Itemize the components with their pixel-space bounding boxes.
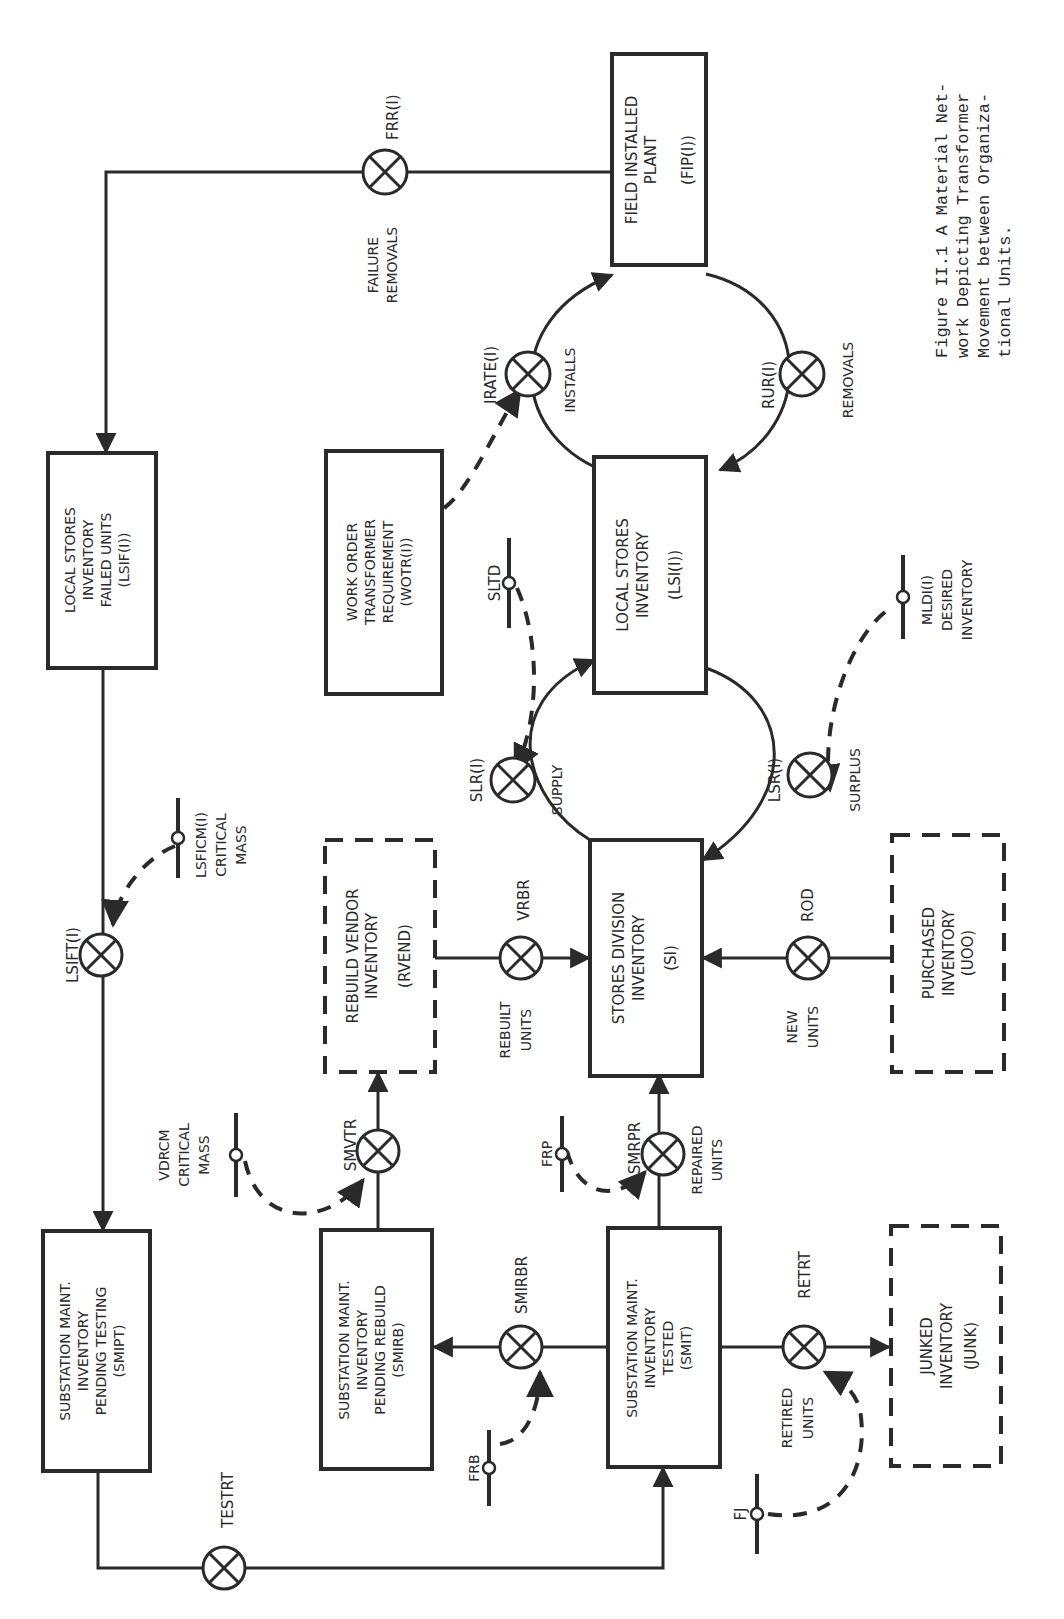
rate-vrbr-desc1: REBUILT: [497, 1001, 513, 1058]
stock-uoo-line2: INVENTORY: [940, 909, 958, 996]
aux-fj: FJ: [732, 1474, 763, 1554]
rate-testrt-name: TESTRT: [219, 1471, 237, 1529]
aux-lsficm-line2: CRITICAL: [213, 813, 229, 877]
stock-fip: FIELD INSTALLED PLANT (FIP(I)): [612, 54, 706, 265]
rate-retrt-name: RETRT: [796, 1250, 814, 1298]
stock-junk: JUNKED INVENTORY (JUNK): [891, 1226, 1001, 1466]
stock-lsif-line1: LOCAL STORES: [62, 507, 78, 613]
aux-frp: FRP: [539, 1116, 568, 1192]
valve-icon: [780, 352, 824, 396]
caption-line4: tional Units.: [996, 225, 1015, 358]
rate-rod-name: ROD: [799, 888, 817, 922]
aux-vdrcm-line2: CRITICAL: [176, 1123, 192, 1187]
stock-wotr-line2: TRANSFORMER: [362, 519, 378, 626]
valve-icon: [783, 1326, 825, 1368]
constant-icon: [751, 1474, 763, 1554]
stock-junk-code: (JUNK): [962, 1322, 980, 1370]
stock-lsif-line2: INVENTORY: [80, 519, 96, 600]
aux-lsficm-line1: LSFICM(I): [193, 812, 209, 878]
rate-smvtr-name: SMVTR: [342, 1119, 360, 1171]
aux-vdrcm-line1: VDRCM: [156, 1129, 172, 1180]
aux-sltd-label: SLTD: [486, 565, 504, 602]
stock-junk-line2: INVENTORY: [938, 1302, 956, 1389]
stock-lsi-line2: INVENTORY: [634, 531, 652, 618]
valve-smirbr: SMIRBR: [500, 1256, 542, 1368]
caption-line3: Movement between Organiza-: [975, 93, 994, 358]
valve-icon: [363, 150, 407, 194]
valve-smvtr: SMVTR: [342, 1119, 399, 1172]
caption-line2: work Depicting Transformer: [954, 93, 973, 358]
figure-caption: Figure II.1 A Material Net- work Depicti…: [933, 83, 1015, 358]
stock-wotr-code: (WOTR(I)): [398, 537, 414, 606]
stock-lsi-code: (LSI(I)): [666, 550, 684, 600]
valve-testrt: TESTRT: [203, 1471, 245, 1589]
stock-junk-line1: JUNKED: [918, 1317, 936, 1376]
stock-smit-line3: TESTED: [660, 1321, 676, 1376]
stock-rvend: REBUILD VENDOR INVENTORY (RVEND): [325, 840, 435, 1072]
aux-sltd: SLTD: [486, 538, 515, 628]
valve-icon: [506, 352, 550, 396]
valve-icon: [80, 934, 122, 976]
stock-fip-line2: PLANT: [642, 135, 660, 184]
constant-icon: [897, 555, 909, 639]
stock-fip-code: (FIP(I)): [679, 135, 697, 185]
stock-smipt-line1: SUBSTATION MAINT.: [57, 1281, 73, 1421]
aux-mldi: MLDI(I) DESIRED INVENTORY: [897, 555, 975, 640]
aux-vdrcm: VDRCM CRITICAL MASS: [156, 1113, 242, 1197]
stock-smipt: SUBSTATION MAINT. INVENTORY PENDING TEST…: [43, 1231, 150, 1471]
rate-slr-desc: SUPPLY: [549, 764, 565, 815]
stock-smipt-line2: INVENTORY: [75, 1310, 91, 1391]
valve-frr: FRR(I) FAILURE REMOVALS: [363, 94, 407, 303]
stock-wotr: WORK ORDER TRANSFORMER REQUIREMENT (WOTR…: [326, 451, 442, 694]
stock-smipt-code: (SMIPT): [111, 1324, 127, 1377]
valve-icon: [203, 1547, 245, 1589]
aux-frb-label: FRB: [466, 1454, 482, 1481]
valve-lsift: LSIFT(I): [64, 927, 122, 983]
constant-icon: [172, 798, 184, 878]
stock-smirb: SUBSTATION MAINT. INVENTORY PENDING REBU…: [321, 1230, 432, 1469]
rate-frr-desc1: FAILURE: [365, 237, 381, 293]
valve-rod: ROD NEW UNITS: [784, 888, 829, 1048]
valve-slr: SLR(I) SUPPLY: [468, 758, 565, 815]
stock-lsi: LOCAL STORES INVENTORY (LSI(I)): [594, 457, 706, 693]
rate-rod-desc1: NEW: [784, 1010, 800, 1043]
aux-mldi-line3: INVENTORY: [959, 559, 975, 640]
caption-line1: Figure II.1 A Material Net-: [933, 83, 952, 358]
valve-icon: [500, 937, 542, 979]
stock-smit-line1: SUBSTATION MAINT.: [624, 1278, 640, 1418]
valve-icon: [642, 1133, 684, 1175]
constant-icon: [503, 538, 515, 628]
flow-testrt: [98, 1468, 663, 1568]
constant-icon: [483, 1430, 495, 1506]
flow-surplus: [703, 668, 774, 860]
stock-rvend-code: (RVEND): [396, 924, 414, 988]
rate-lsr-desc: SURPLUS: [847, 748, 863, 812]
stock-lsi-line1: LOCAL STORES: [614, 518, 632, 631]
constant-icon: [230, 1113, 242, 1197]
stock-fip-line1: FIELD INSTALLED: [623, 96, 641, 224]
link-lsficm-lsift: [113, 846, 175, 925]
valve-retrt: RETRT RETIRED UNITS: [779, 1250, 825, 1448]
rate-smrpr-desc1: REPAIRED: [689, 1125, 705, 1194]
stock-smit-line2: INVENTORY: [642, 1307, 658, 1388]
aux-mldi-line1: MLDI(I): [919, 575, 935, 625]
rate-slr-name: SLR(I): [468, 758, 486, 802]
stock-si-line1: STORES DIVISION: [610, 892, 628, 1024]
rate-frr-name: FRR(I): [384, 94, 402, 140]
rate-smirbr-name: SMIRBR: [513, 1256, 531, 1314]
rate-retrt-desc1: RETIRED: [779, 1388, 795, 1449]
stock-si-line2: INVENTORY: [630, 914, 648, 1001]
stock-si: STORES DIVISION INVENTORY (SI): [590, 840, 702, 1076]
valve-icon: [787, 937, 829, 979]
stock-rvend-line1: REBUILD VENDOR: [344, 888, 362, 1023]
stock-wotr-line3: REQUIREMENT: [380, 520, 396, 623]
rate-rur-name: RUR(I): [760, 361, 778, 409]
link-wotr-irate: [444, 390, 520, 508]
valve-icon: [357, 1130, 399, 1172]
valve-icon: [788, 753, 832, 797]
valve-smrpr: SMRPR REPAIRED UNITS: [626, 1122, 725, 1195]
valve-irate: IRATE(I) INSTALLS: [482, 346, 578, 413]
stock-uoo-line1: PURCHASED: [920, 907, 938, 999]
stock-wotr-line1: WORK ORDER: [344, 523, 360, 622]
aux-frb: FRB: [466, 1430, 495, 1506]
